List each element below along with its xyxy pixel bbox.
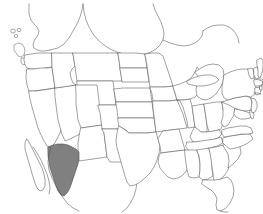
- state-iowa: [150, 86, 177, 101]
- state-north-dakota: [118, 53, 147, 68]
- state-montana: [73, 53, 122, 81]
- state-minnesota: [145, 53, 173, 87]
- island-vancouver-small-a: [11, 29, 16, 33]
- state-florida: [202, 177, 234, 211]
- island-olympic-peninsula: [14, 43, 25, 57]
- region-sonora-highlighted: [48, 144, 79, 196]
- state-kansas: [116, 102, 154, 118]
- state-washington: [24, 53, 52, 69]
- island-vancouver-small-b: [17, 28, 21, 31]
- great-lakes-north-shore: [203, 25, 239, 43]
- state-nebraska: [114, 88, 152, 102]
- baja-california-peninsula: [25, 139, 45, 191]
- state-arkansas: [158, 129, 185, 153]
- state-mississippi: [185, 150, 200, 178]
- state-idaho: [52, 53, 76, 88]
- state-rhode-island: [260, 86, 262, 90]
- map-container: [0, 0, 263, 214]
- island-vancouver-small-c: [14, 35, 17, 38]
- canada-border-west: [50, 4, 83, 50]
- northeast-states-group: [222, 58, 263, 113]
- state-louisiana: [158, 150, 189, 179]
- state-south-dakota: [120, 68, 149, 82]
- state-new-jersey: [251, 98, 257, 113]
- state-oregon: [26, 67, 55, 91]
- us-map: [0, 0, 263, 214]
- gulf-of-california: [33, 147, 50, 194]
- canada-pacific-coast: [29, 4, 50, 51]
- state-texas: [116, 126, 160, 186]
- florida-keys: [220, 211, 228, 212]
- state-maine: [257, 58, 263, 78]
- hudson-bay-outline: [163, 31, 203, 46]
- canada-border-and-coastline: [29, 4, 239, 55]
- canada-interior-lake-west: [83, 4, 164, 55]
